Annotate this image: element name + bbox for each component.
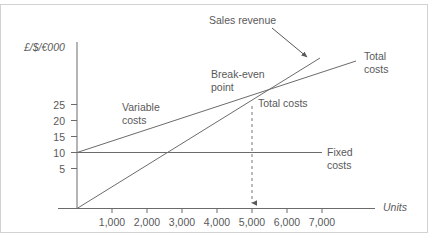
- y-tick-label-15: 15: [43, 131, 65, 143]
- y-tick-label-5: 5: [43, 163, 65, 175]
- sales-revenue-line: [77, 58, 320, 209]
- break-even-chart: £/$/€000 25 20 15 10 5 1,000 2,000 3,000…: [0, 0, 428, 236]
- fixed-costs-label-line1: Fixed: [327, 146, 353, 159]
- x-tick-label-1000: 1,000: [92, 216, 132, 228]
- x-tick-label-5000: 5,000: [232, 216, 272, 228]
- variable-costs-label-line2: costs: [122, 114, 147, 127]
- break-even-label-line1: Break-even: [211, 68, 265, 81]
- variable-costs-label-line1: Variable: [122, 101, 160, 114]
- x-tick-label-3000: 3,000: [162, 216, 202, 228]
- y-tick-label-20: 20: [43, 115, 65, 127]
- y-tick-label-25: 25: [43, 99, 65, 111]
- x-tick-label-4000: 4,000: [197, 216, 237, 228]
- x-axis-label: Units: [383, 201, 407, 214]
- break-even-label-line2: point: [211, 81, 234, 94]
- x-tick-label-2000: 2,000: [127, 216, 167, 228]
- total-costs-right-label-line1: Total: [364, 50, 386, 63]
- fixed-costs-label-line2: costs: [327, 159, 352, 172]
- sales-revenue-label: Sales revenue: [209, 14, 276, 27]
- y-tick-label-10: 10: [43, 147, 65, 159]
- x-tick-label-6000: 6,000: [267, 216, 307, 228]
- x-tick-label-7000: 7,000: [302, 216, 342, 228]
- total-costs-inline-label: Total costs: [258, 97, 308, 110]
- total-costs-right-label-line2: costs: [364, 63, 389, 76]
- sales-revenue-arrow: [272, 28, 307, 57]
- y-axis-label: £/$/€000: [24, 41, 65, 54]
